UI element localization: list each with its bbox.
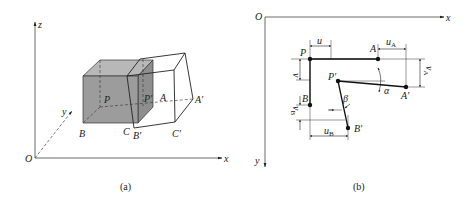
point-A-label: A [159, 92, 167, 103]
original-cube [83, 59, 193, 123]
point-B-prime-label: B' [133, 130, 142, 141]
figure-canvas: z x y O P P' A A' B C B' C' (a) [0, 0, 471, 207]
figure-b: O x y [254, 11, 451, 193]
point-B-prime-b-label: B' [354, 123, 363, 134]
caption-a: (a) [120, 181, 131, 193]
z-axis-label: z [37, 19, 42, 30]
angle-alpha-label: α [384, 85, 390, 96]
dim-uA-label: uA [386, 36, 396, 49]
y-axis-label: y [61, 106, 67, 117]
body-lines [310, 59, 406, 128]
angle-beta-label: β [342, 93, 348, 104]
point-B [308, 103, 312, 107]
dim-vB-label: vB [289, 106, 302, 115]
dim-u-label: u [317, 35, 322, 46]
caption-b: (b) [353, 181, 365, 193]
dim-vA-label: vA [422, 66, 435, 76]
point-B-b-label: B [302, 93, 308, 104]
point-B-label: B [79, 128, 85, 139]
y-axis [35, 111, 72, 158]
point-C-prime-label: C' [172, 128, 182, 139]
point-A-b-label: A [369, 43, 377, 54]
point-A-prime-label: A' [194, 94, 204, 105]
figure-a: z x y O P P' A A' B C B' C' (a) [25, 19, 229, 193]
point-P-b-label: P [299, 47, 306, 58]
x-axis-b-label: x [445, 12, 451, 23]
point-P [308, 57, 312, 61]
point-P-prime [336, 79, 340, 83]
x-axis-label: x [223, 153, 229, 164]
origin-b-label: O [255, 11, 262, 22]
point-A-prime [404, 85, 408, 89]
point-B-prime [346, 126, 350, 130]
y-axis-b-label: y [254, 155, 260, 166]
point-A [376, 57, 380, 61]
point-P-label: P [103, 94, 110, 105]
point-C-label: C [123, 126, 130, 137]
dim-v-label: v [291, 73, 302, 78]
point-P-prime-b-label: P' [327, 71, 337, 82]
point-A-prime-b-label: A' [400, 90, 410, 101]
point-P-prime-label: P' [143, 93, 153, 104]
material-points [308, 57, 408, 130]
origin-label: O [25, 153, 32, 164]
